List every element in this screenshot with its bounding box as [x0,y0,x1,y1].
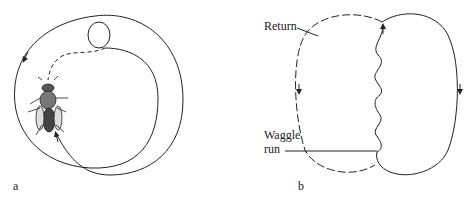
return-leader-line [297,28,318,36]
panel-a-label: a [13,180,18,193]
waggle-run-path [375,26,383,152]
return-label: Return [264,20,297,33]
outer-loop-path [14,16,158,168]
panel-b-diagram [285,14,460,175]
panel-b-label: b [298,180,304,193]
right-solid-loop [377,14,458,175]
dashed-return-path [48,48,105,80]
figure: Return Waggle run a b [0,0,476,201]
diagram-canvas [0,0,476,201]
bee-icon [28,76,68,135]
waggle-label-line1: Waggle [264,129,300,142]
outer-right-loop-path [57,15,183,175]
waggle-label-line2: run [264,143,280,156]
return-dashed-loop [296,15,382,172]
small-loop [88,22,110,48]
panel-a-diagram [14,15,183,175]
